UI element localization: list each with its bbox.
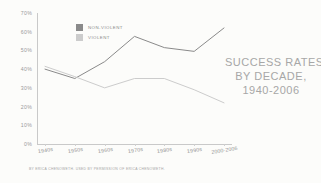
line-violent xyxy=(45,66,224,102)
x-tick-1950s: 1950s xyxy=(67,146,83,154)
x-tick-1990s: 1990s xyxy=(187,146,203,154)
x-tick-1980s: 1980s xyxy=(157,146,173,154)
line-non-violent xyxy=(45,28,224,79)
legend-swatch-nonviolent xyxy=(76,24,83,31)
y-tick-10: 10% xyxy=(21,122,32,128)
legend-label-violent: VIOLENT xyxy=(88,35,110,40)
chart-title-line-2: BY DECADE, xyxy=(225,69,317,83)
y-tick-50: 50% xyxy=(21,47,32,53)
y-tick-30: 30% xyxy=(21,85,32,91)
legend-item-nonviolent: NON-VIOLENT xyxy=(76,23,123,32)
y-tick-20: 20% xyxy=(21,104,32,110)
x-tick-1960s: 1960s xyxy=(97,146,113,154)
y-tick-0: 0% xyxy=(24,141,32,147)
y-tick-60: 60% xyxy=(21,29,32,35)
chart-title-line-3: 1940-2006 xyxy=(225,83,317,97)
chart-figure: 0%10%20%30%40%50%60%70% 1940s1950s1960s1… xyxy=(0,0,321,183)
legend-swatch-violent xyxy=(76,34,83,41)
series-lines xyxy=(37,13,232,145)
y-tick-70: 70% xyxy=(21,10,32,16)
x-tick-1940s: 1940s xyxy=(38,146,54,154)
chart-legend: NON-VIOLENT VIOLENT xyxy=(76,23,123,43)
attribution-credit: BY ERICA CHENOWETH. USED BY PERMISSION O… xyxy=(29,167,165,171)
legend-label-nonviolent: NON-VIOLENT xyxy=(88,25,123,30)
x-tick-2000-2006: 2000-2006 xyxy=(211,145,238,155)
chart-title: SUCCESS RATES BY DECADE, 1940-2006 xyxy=(225,55,317,97)
chart-title-line-1: SUCCESS RATES xyxy=(225,55,317,69)
legend-item-violent: VIOLENT xyxy=(76,33,123,42)
y-tick-40: 40% xyxy=(21,66,32,72)
plot-area: 0%10%20%30%40%50%60%70% 1940s1950s1960s1… xyxy=(37,13,232,145)
x-tick-1970s: 1970s xyxy=(127,146,143,154)
